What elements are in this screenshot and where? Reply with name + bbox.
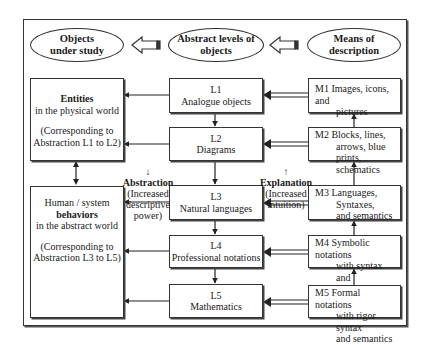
means-box-m1: M1 Images, icons, and pictures <box>308 78 401 113</box>
means-text: with rigor syntax <box>315 310 396 333</box>
means-text: and semantics <box>315 333 396 345</box>
means-code: M1 <box>315 83 329 94</box>
abstraction-note: descriptive <box>120 199 176 210</box>
level-label: Natural languages <box>180 203 252 215</box>
ellipse-text: Abstract levels of <box>177 33 255 44</box>
level-code: L2 <box>210 133 221 145</box>
ellipse-text: objects <box>200 45 232 56</box>
level-box-l5: L5 Mathematics <box>169 284 263 318</box>
hollow-arrow-2 <box>270 37 298 53</box>
ellipse-means-of-description: Means ofdescription <box>307 28 401 62</box>
means-text: Syntaxes, <box>315 199 396 211</box>
means-code: M4 <box>315 237 329 248</box>
means-code: M3 <box>315 187 329 198</box>
entities-note: Abstraction L1 to L2) <box>31 137 123 149</box>
entities-note: (Corresponding to <box>31 125 123 137</box>
ellipse-text: Means of <box>333 33 374 44</box>
behaviors-subtitle: in the abstract world <box>31 220 123 232</box>
behaviors-line: Human / system <box>31 197 123 209</box>
means-code: M5 <box>315 287 329 298</box>
explanation-note: intuition) <box>258 199 314 210</box>
ellipse-text: description <box>329 45 379 56</box>
abstraction-note: (Increased <box>120 188 176 199</box>
means-text: Blocks, lines, <box>331 129 385 140</box>
level-code: L1 <box>210 84 221 96</box>
level-box-l4: L4 Professional notations <box>169 235 263 268</box>
level-code: L5 <box>210 290 221 302</box>
ellipse-objects-under-study: Objectsunder study <box>30 28 124 62</box>
means-box-m2: M2 Blocks, lines, arrows, blue prints, s… <box>308 127 401 161</box>
down-arrow-icon: ↓ <box>146 166 151 177</box>
entities-box: Entities in the physical world (Correspo… <box>30 78 124 161</box>
means-text: and semantics <box>315 210 396 222</box>
level-box-l3: L3 Natural languages <box>169 185 263 220</box>
behaviors-note: (Corresponding to <box>31 241 123 253</box>
ellipse-text: Objects <box>60 33 94 44</box>
means-box-m4: M4 Symbolic notations with syntax and se… <box>308 235 401 268</box>
hollow-arrow-1 <box>132 37 160 53</box>
level-label: Analogue objects <box>181 96 251 108</box>
means-text: Languages, <box>331 187 377 198</box>
abstraction-title: Abstraction <box>123 177 174 188</box>
level-box-l2: L2 Diagrams <box>169 127 263 161</box>
level-box-l1: L1 Analogue objects <box>169 78 263 113</box>
explanation-title: Explanation <box>260 177 312 188</box>
means-text: with syntax and <box>315 260 396 283</box>
means-text: schematics <box>315 164 396 176</box>
level-label: Mathematics <box>190 301 242 313</box>
level-code: L3 <box>210 191 221 203</box>
entities-title: Entities <box>31 93 123 105</box>
entities-subtitle: in the physical world <box>31 105 123 117</box>
means-text: pictures <box>315 106 396 118</box>
behaviors-title: behaviors <box>31 209 123 221</box>
behaviors-note: Abstraction L3 to L5) <box>31 252 123 264</box>
up-arrow-icon: ↑ <box>284 166 289 177</box>
level-label: Diagrams <box>197 144 236 156</box>
abstraction-annotation: ↓ Abstraction (Increased descriptive pow… <box>120 166 176 221</box>
ellipse-abstract-levels: Abstract levels ofobjects <box>168 28 264 62</box>
abstraction-note: power) <box>120 210 176 221</box>
means-box-m3: M3 Languages, Syntaxes, and semantics <box>308 185 401 220</box>
means-text: arrows, blue prints, <box>315 141 396 164</box>
explanation-annotation: ↑ Explanation (Increased intuition) <box>258 166 314 210</box>
behaviors-box: Human / system behaviors in the abstract… <box>30 186 124 318</box>
means-code: M2 <box>315 129 329 140</box>
explanation-note: (Increased <box>258 188 314 199</box>
level-code: L4 <box>210 240 221 252</box>
means-box-m5: M5 Formal notations with rigor syntax an… <box>308 285 401 318</box>
ellipse-text: under study <box>50 45 104 56</box>
level-label: Professional notations <box>172 252 261 264</box>
